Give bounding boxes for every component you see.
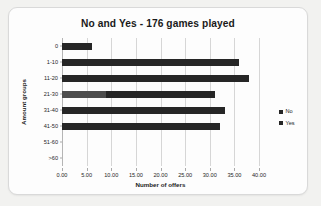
chart-legend: NoYes [279, 109, 295, 132]
x-tick-label: 0.00 [57, 172, 68, 178]
y-tick-label: 41-50 [44, 123, 58, 129]
x-tick-label: 10.00 [104, 172, 118, 178]
legend-swatch-icon [279, 110, 283, 114]
y-axis-title: Amount groups [20, 79, 27, 125]
y-tick-mark [60, 46, 63, 47]
x-tick-mark [87, 168, 88, 171]
x-tick-label: 15.00 [129, 172, 143, 178]
x-tick-mark [234, 168, 235, 171]
x-tick-mark [259, 168, 260, 171]
x-tick-label: 35.00 [227, 172, 241, 178]
x-tick-label: 30.00 [203, 172, 217, 178]
y-tick-label: 11-20 [44, 75, 58, 81]
legend-swatch-icon [279, 121, 283, 125]
x-tick-mark [111, 168, 112, 171]
y-tick-label: 1-10 [47, 59, 58, 65]
y-tick-label: 31-40 [44, 107, 58, 113]
y-tick-mark [60, 142, 63, 143]
x-tick-mark [161, 168, 162, 171]
y-tick-mark [60, 78, 63, 79]
legend-label: No [286, 109, 293, 115]
chart-card: No and Yes - 176 games played 01-1011-20… [8, 7, 308, 195]
y-tick-label: 0 [55, 43, 58, 49]
legend-item[interactable]: No [279, 109, 295, 115]
y-tick-label: 21-30 [44, 91, 58, 97]
x-tick-mark [185, 168, 186, 171]
x-tick-label: 40.00 [252, 172, 266, 178]
y-tick-mark [60, 158, 63, 159]
x-tick-label: 20.00 [154, 172, 168, 178]
x-tick-mark [62, 168, 63, 171]
x-tick-mark [210, 168, 211, 171]
legend-label: Yes [286, 121, 295, 127]
x-tick-label: 25.00 [178, 172, 192, 178]
y-tick-mark [60, 126, 63, 127]
x-axis-tick-labels: 0.005.0010.0015.0020.0025.0030.0035.0040… [9, 168, 321, 182]
x-axis-title: Number of offers [62, 181, 259, 188]
y-tick-mark [60, 110, 63, 111]
x-tick-mark [136, 168, 137, 171]
legend-item[interactable]: Yes [279, 121, 295, 127]
y-tick-mark [60, 94, 63, 95]
y-tick-label: 51-60 [44, 139, 58, 145]
x-tick-label: 5.00 [81, 172, 92, 178]
y-tick-label: >60 [49, 155, 59, 161]
y-tick-mark [60, 62, 63, 63]
